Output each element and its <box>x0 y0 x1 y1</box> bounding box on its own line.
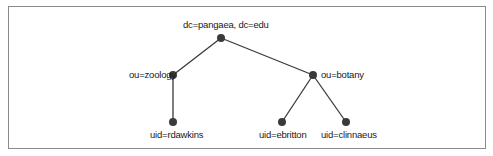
node-ebritton <box>278 118 286 126</box>
edge-botany-ebritton <box>282 75 313 122</box>
label-ebritton: uid=ebritton <box>259 129 307 140</box>
label-botany: ou=botany <box>321 69 364 80</box>
label-rdawkins: uid=rdawkins <box>150 129 203 140</box>
edges <box>173 38 346 122</box>
node-rdawkins <box>169 118 177 126</box>
node-root <box>217 34 225 42</box>
edge-root-botany <box>221 38 313 75</box>
label-zoology: ou=zoology <box>129 69 176 80</box>
edge-botany-clinnaeus <box>313 75 346 122</box>
node-clinnaeus <box>342 118 350 126</box>
nodes <box>169 34 350 126</box>
label-clinnaeus: uid=clinnaeus <box>321 129 377 140</box>
label-root: dc=pangaea, dc=edu <box>183 19 269 30</box>
edge-root-zoology <box>173 38 221 75</box>
node-botany <box>309 71 317 79</box>
